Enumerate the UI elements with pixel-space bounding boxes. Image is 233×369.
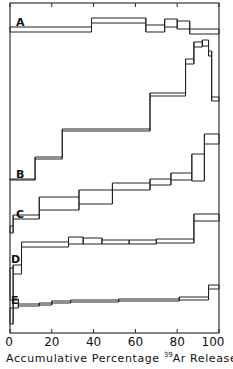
- x-tick-label: 20: [44, 335, 59, 349]
- plot-border: [10, 3, 219, 333]
- x-axis-label-isotope: 39: [164, 351, 173, 359]
- spectrum-lower-bound: [10, 23, 219, 34]
- spectrum-lower-bound: [10, 46, 219, 180]
- x-axis-ticks: [10, 3, 219, 333]
- spectrum-e: [10, 285, 219, 324]
- x-axis-label-suffix: Ar Released: [173, 352, 233, 365]
- spectrum-lower-bound: [10, 221, 219, 300]
- series-label-c: C: [16, 208, 24, 221]
- series-label-d: D: [11, 253, 20, 266]
- age-spectra-chart: [0, 0, 233, 369]
- series-label-b: B: [16, 168, 24, 181]
- x-axis-label-prefix: Accumulative Percentage: [6, 352, 164, 365]
- spectrum-b: [10, 40, 219, 180]
- x-axis-label: Accumulative Percentage 39Ar Released: [6, 351, 233, 365]
- spectrum-upper-bound: [10, 40, 219, 179]
- x-tick-label: 100: [202, 335, 225, 349]
- x-tick-label: 60: [128, 335, 143, 349]
- series-label-a: A: [16, 16, 25, 29]
- spectrum-upper-bound: [10, 214, 219, 268]
- spectrum-lower-bound: [10, 289, 219, 324]
- series-label-e: E: [11, 294, 19, 307]
- spectrum-c: [10, 134, 219, 233]
- spectra-series: [10, 18, 219, 324]
- spectrum-a: [10, 18, 219, 34]
- plot-frame: [10, 3, 219, 333]
- x-tick-label: 80: [170, 335, 185, 349]
- spectrum-d: [10, 214, 219, 300]
- x-tick-label: 0: [5, 335, 13, 349]
- x-tick-label: 40: [86, 335, 101, 349]
